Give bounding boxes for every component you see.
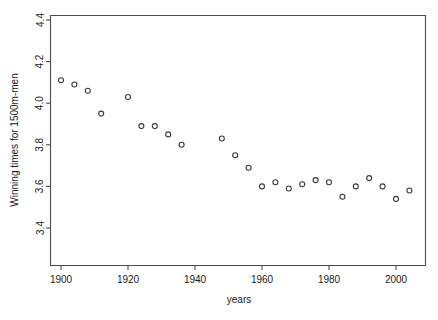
x-axis-title: years [227, 294, 251, 305]
x-tick-label: 2000 [385, 274, 408, 285]
plot-background [0, 0, 438, 320]
scatter-plot: 3.43.63.84.04.24.4 190019201940196019802… [0, 0, 438, 320]
x-tick-label: 1960 [251, 274, 274, 285]
y-axis-title: Winning times for 1500m-men [9, 73, 20, 206]
x-tick-label: 1900 [50, 274, 73, 285]
chart-figure: 3.43.63.84.04.24.4 190019201940196019802… [0, 0, 438, 320]
y-tick-label: 3.8 [35, 137, 46, 151]
x-tick-label: 1920 [117, 274, 140, 285]
y-tick-label: 4.2 [35, 54, 46, 68]
x-tick-label: 1980 [318, 274, 341, 285]
y-tick-label: 3.4 [35, 221, 46, 235]
y-tick-label: 4.0 [35, 96, 46, 110]
x-tick-label: 1940 [184, 274, 207, 285]
y-tick-label: 4.4 [35, 13, 46, 27]
y-tick-label: 3.6 [35, 179, 46, 193]
